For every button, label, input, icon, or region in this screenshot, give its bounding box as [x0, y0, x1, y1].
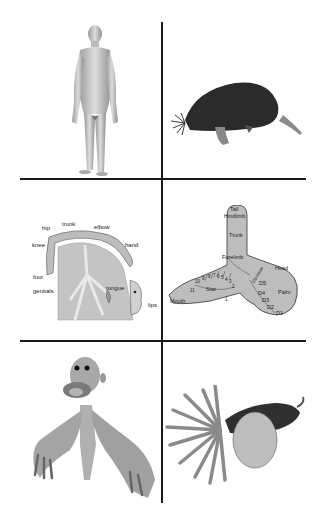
label-ray-7: 7 [213, 274, 216, 279]
label-ray-8: 8 [208, 275, 211, 280]
human-homunculus-figure [30, 350, 160, 500]
label-hip: hip [42, 225, 50, 231]
mole-image [165, 75, 305, 155]
mole-cortex-map: Tail Hindlimb Trunk Forelimb Head Vibris… [165, 205, 305, 317]
label-trunk: Trunk [229, 233, 243, 239]
label-d5: D5 [259, 281, 266, 287]
label-ray-10: 10 [195, 280, 200, 285]
label-ray-4: 4 [225, 278, 228, 283]
label-hindlimb: Hindlimb [224, 214, 245, 220]
label-star: Star [206, 287, 216, 293]
label-genitals: genitals [33, 288, 54, 294]
label-d1: D1 [276, 311, 283, 317]
label-tail: Tail [230, 207, 238, 213]
label-palm: Palm [278, 290, 291, 296]
label-hand: hand [125, 242, 138, 248]
human-body-image [60, 22, 130, 177]
label-d4: D4 [258, 291, 265, 297]
label-foot: foot [33, 274, 43, 280]
label-head: Head [275, 266, 288, 272]
label-forelimb: Forelimb [222, 255, 243, 261]
label-ray-5: 5 [221, 276, 224, 281]
label-ray-9: 9 [202, 277, 205, 282]
label-ray-6: 6 [217, 275, 220, 280]
label-ray-11: 11 [190, 289, 195, 294]
label-ray-1: 1 [225, 298, 228, 303]
label-tongue: tongue [106, 285, 124, 291]
label-ray-2: 2 [232, 285, 235, 290]
label-d3: D3 [262, 298, 269, 304]
label-elbow: elbow [94, 224, 110, 230]
mole-homunculus-figure [165, 385, 305, 485]
horizontal-divider-2 [20, 340, 306, 342]
vertical-divider [161, 22, 163, 503]
label-d2: D2 [267, 305, 274, 311]
label-knee: knee [32, 242, 45, 248]
human-homunculus-map: hip trunk elbow knee hand foot genitals … [25, 215, 157, 325]
label-lips: lips [148, 302, 157, 308]
label-mouth: Mouth [170, 299, 185, 305]
label-trunk: trunk [62, 221, 75, 227]
horizontal-divider-1 [20, 178, 306, 180]
